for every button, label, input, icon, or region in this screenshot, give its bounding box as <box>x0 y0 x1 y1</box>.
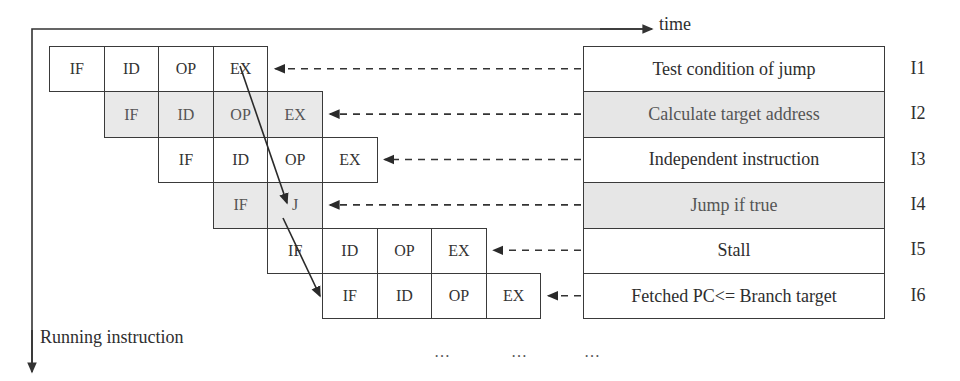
stage-cell-i6-id: ID <box>377 273 433 319</box>
instruction-label-i3: I3 <box>898 149 938 170</box>
time-axis-label: time <box>659 14 691 35</box>
stage-cell-i3-op: OP <box>267 137 323 183</box>
stage-cell-i1-id: ID <box>104 46 160 92</box>
stage-cell-i5-op: OP <box>377 228 433 274</box>
instruction-description-i1: Test condition of jump <box>583 46 885 92</box>
instruction-description-i2: Calculate target address <box>583 91 885 137</box>
instruction-label-i6: I6 <box>898 285 938 306</box>
stage-cell-i2-op: OP <box>213 91 269 137</box>
stage-cell-i4-if: IF <box>213 182 269 228</box>
instruction-description-i4: Jump if true <box>583 182 885 228</box>
stage-cell-i2-if: IF <box>104 91 160 137</box>
stage-cell-i4-j: J <box>267 182 323 228</box>
stage-cell-i3-ex: EX <box>322 137 378 183</box>
running-instruction-axis-label: Running instruction <box>40 327 184 348</box>
instruction-description-i6: Fetched PC<= Branch target <box>583 273 885 319</box>
instruction-label-i4: I4 <box>898 194 938 215</box>
stage-cell-i2-id: ID <box>158 91 214 137</box>
instruction-label-i2: I2 <box>898 103 938 124</box>
stage-cell-i1-if: IF <box>49 46 105 92</box>
ellipsis-1: … <box>434 343 451 361</box>
stage-cell-i3-if: IF <box>158 137 214 183</box>
stage-cell-i6-if: IF <box>322 273 378 319</box>
stage-cell-i5-id: ID <box>322 228 378 274</box>
instruction-description-i3: Independent instruction <box>583 137 885 183</box>
stage-cell-i5-ex: EX <box>431 228 487 274</box>
stage-cell-i1-op: OP <box>158 46 214 92</box>
stage-cell-i6-op: OP <box>431 273 487 319</box>
stage-cell-i2-ex: EX <box>267 91 323 137</box>
pipeline-diagram: IFIDOPEXIFIDOPEXIFIDOPEXIFJIFIDOPEXIFIDO… <box>0 0 960 381</box>
instruction-label-i5: I5 <box>898 239 938 260</box>
instruction-description-i5: Stall <box>583 228 885 274</box>
stage-cell-i5-if: IF <box>267 228 323 274</box>
stage-cell-i3-id: ID <box>213 137 269 183</box>
instruction-label-i1: I1 <box>898 58 938 79</box>
ellipsis-3: … <box>584 343 601 361</box>
stage-cell-i6-ex: EX <box>486 273 542 319</box>
stage-cell-i1-ex: EX <box>213 46 269 92</box>
ellipsis-2: … <box>511 343 528 361</box>
